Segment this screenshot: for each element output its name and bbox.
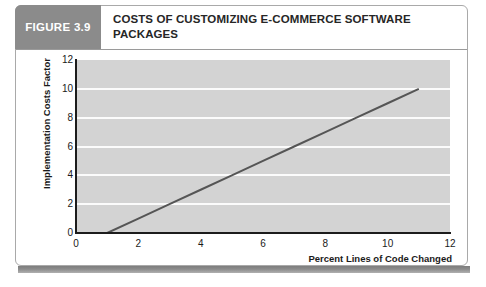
y-tick-label: 6 — [19, 142, 73, 152]
x-tick-label: 2 — [123, 238, 153, 249]
x-tick-label: 6 — [248, 238, 278, 249]
y-tick-label: 0 — [19, 228, 73, 238]
x-tick-label: 8 — [310, 238, 340, 249]
y-tick-label: 12 — [19, 55, 73, 65]
y-tick-label: 10 — [19, 84, 73, 94]
series-line-chart — [76, 60, 450, 233]
figure-title: COSTS OF CUSTOMIZING E-COMMERCE SOFTWARE… — [113, 12, 453, 42]
chart: Implementation Costs Factor 024681012 02… — [15, 50, 468, 266]
plot-area — [76, 60, 450, 233]
x-axis-line — [75, 232, 451, 234]
y-axis-tick-labels: 024681012 — [15, 50, 73, 250]
x-axis-title: Percent Lines of Code Changed — [15, 253, 452, 264]
x-tick-label: 12 — [435, 238, 465, 249]
y-tick-label: 2 — [19, 199, 73, 209]
x-tick-label: 0 — [61, 238, 91, 249]
figure-container: FIGURE 3.9 COSTS OF CUSTOMIZING E-COMMER… — [0, 0, 486, 287]
x-tick-label: 4 — [186, 238, 216, 249]
y-tick-label: 4 — [19, 170, 73, 180]
y-axis-line — [75, 59, 77, 234]
figure-number-badge: FIGURE 3.9 — [15, 5, 101, 49]
figure-number-label: FIGURE 3.9 — [25, 21, 91, 33]
figure-shadow-bar — [18, 266, 470, 273]
y-tick-label: 8 — [19, 113, 73, 123]
figure-header: FIGURE 3.9 COSTS OF CUSTOMIZING E-COMMER… — [15, 5, 468, 49]
x-tick-label: 10 — [373, 238, 403, 249]
series-line — [107, 89, 419, 233]
